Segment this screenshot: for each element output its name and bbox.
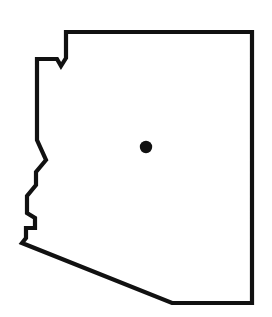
capital-city-dot [140, 141, 152, 153]
map-figure [0, 0, 272, 317]
state-map-svg [0, 0, 272, 317]
